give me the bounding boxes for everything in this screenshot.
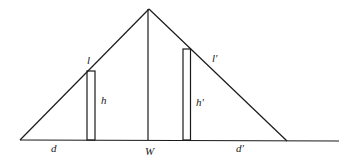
label-d: d	[51, 142, 57, 154]
pyramid-diagram: l h l' h' d W d'	[0, 0, 353, 167]
label-h-prime: h'	[196, 96, 205, 108]
right-slope	[149, 9, 287, 141]
ground-line	[20, 140, 339, 141]
label-l: l	[87, 54, 90, 66]
label-d-prime: d'	[236, 142, 245, 154]
left-slope	[20, 9, 149, 140]
right-pole	[183, 49, 191, 140]
label-l-prime: l'	[212, 52, 218, 64]
label-h: h	[101, 94, 107, 106]
left-pole	[87, 71, 95, 140]
label-W: W	[145, 145, 155, 157]
